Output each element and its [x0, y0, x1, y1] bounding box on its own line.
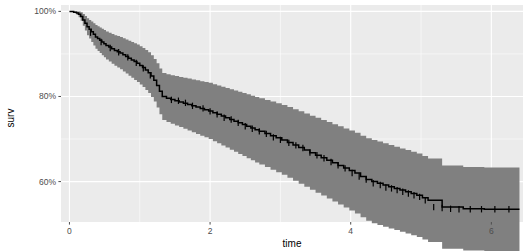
x-tick-label: 6	[489, 226, 494, 236]
x-axis-title: time	[283, 238, 302, 249]
x-tick-label: 4	[348, 226, 353, 236]
y-tick-label: 100%	[34, 6, 56, 16]
survival-plot: 60%80%100% 0246 surv time	[0, 0, 531, 251]
y-tick-label: 80%	[39, 91, 56, 101]
x-tick-label: 2	[208, 226, 213, 236]
x-tick-label: 0	[67, 226, 72, 236]
chart-canvas: 60%80%100% 0246 surv time	[0, 0, 531, 251]
y-tick-label: 60%	[39, 177, 56, 187]
y-axis-title: surv	[5, 109, 16, 128]
